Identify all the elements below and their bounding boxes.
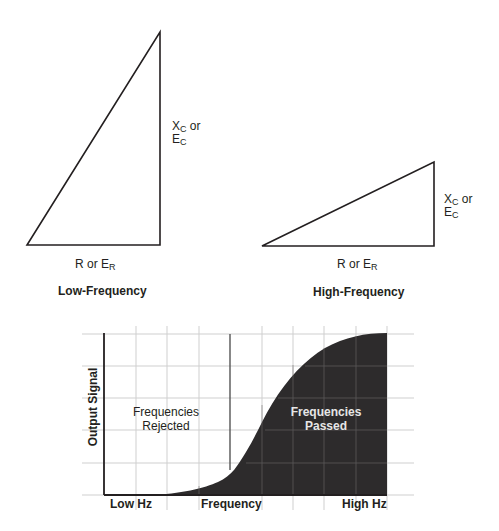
low-frequency-triangle — [27, 32, 160, 245]
region-text: Frequencies — [133, 405, 199, 419]
high-horizontal-label: R or ER — [337, 258, 378, 271]
high-vertical-label: XC or EC — [444, 193, 473, 219]
x-tick-low-hz: Low Hz — [110, 497, 152, 511]
passed-region-label: Frequencies Passed — [286, 405, 366, 433]
label-subscript: R — [371, 262, 378, 272]
high-frequency-title: High-Frequency — [313, 285, 404, 299]
x-tick-frequency: Frequency — [201, 497, 262, 511]
low-vertical-label: XC or EC — [172, 120, 201, 146]
label-text: or — [459, 192, 473, 206]
label-text: or — [187, 119, 201, 133]
label-text: X — [444, 192, 452, 206]
label-text: E — [444, 205, 452, 219]
rejected-region-label: Frequencies Rejected — [126, 405, 206, 433]
label-text: R or E — [75, 257, 109, 271]
label-subscript: C — [180, 137, 187, 147]
label-text: E — [172, 132, 180, 146]
region-text: Passed — [305, 419, 347, 433]
label-text: R or E — [337, 257, 371, 271]
high-frequency-triangle — [262, 162, 434, 246]
low-horizontal-label: R or ER — [75, 258, 116, 271]
y-axis-label: Output Signal — [86, 367, 100, 447]
region-text: Rejected — [142, 419, 189, 433]
label-subscript: R — [109, 262, 116, 272]
label-subscript: C — [452, 210, 459, 220]
label-text: X — [172, 119, 180, 133]
x-tick-high-hz: High Hz — [342, 497, 387, 511]
low-frequency-title: Low-Frequency — [58, 284, 147, 298]
region-text: Frequencies — [291, 405, 362, 419]
